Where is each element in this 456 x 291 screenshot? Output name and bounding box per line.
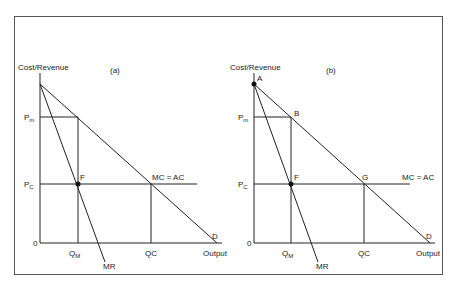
point-a — [252, 82, 257, 87]
demand-label: D — [426, 232, 432, 241]
mc-ac-label: MC = AC — [402, 173, 434, 182]
mr-label: MR — [316, 262, 329, 271]
marginal-revenue-curve — [40, 84, 105, 262]
qm-label: QM — [282, 249, 293, 259]
pm-label: Pm — [238, 113, 248, 123]
origin-label: 0 — [33, 239, 38, 248]
origin-label: 0 — [247, 239, 252, 248]
qm-label: QM — [69, 249, 80, 259]
panel-a: Cost/Revenue (a) Pm PC 0 QM QC Output D … — [18, 63, 228, 271]
point-b-label: B — [294, 109, 299, 118]
qc-label: QC — [358, 249, 370, 258]
mr-label: MR — [103, 262, 116, 271]
point-a-label: A — [257, 74, 263, 83]
point-f — [76, 182, 81, 187]
x-axis-label: Output — [203, 249, 228, 258]
panel-b: Cost/Revenue (b) A B F G Pm PC 0 QM QC O… — [230, 63, 441, 271]
demand-label: D — [212, 232, 218, 241]
panel-label: (a) — [110, 66, 120, 75]
marginal-revenue-curve — [254, 84, 318, 262]
point-f-label: F — [80, 173, 85, 182]
panel-label: (b) — [326, 66, 336, 75]
x-axis-label: Output — [416, 249, 441, 258]
y-axis-label: Cost/Revenue — [18, 63, 69, 72]
pc-label: PC — [238, 180, 248, 190]
pc-label: PC — [24, 180, 34, 190]
demand-curve — [254, 84, 430, 243]
point-f-label: F — [294, 173, 299, 182]
monopoly-diagram: Cost/Revenue (a) Pm PC 0 QM QC Output D … — [0, 0, 456, 291]
point-g-label: G — [362, 173, 368, 182]
qc-label: QC — [145, 249, 157, 258]
mc-ac-label: MC = AC — [152, 173, 184, 182]
point-f — [289, 182, 294, 187]
pm-label: Pm — [24, 113, 34, 123]
demand-curve — [40, 84, 217, 243]
y-axis-label: Cost/Revenue — [230, 63, 281, 72]
